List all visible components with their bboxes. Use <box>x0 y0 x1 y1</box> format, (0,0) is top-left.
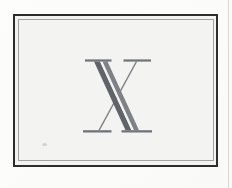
letter-x-serif-bottom-right <box>122 130 153 132</box>
letter-x-glyph <box>0 0 232 188</box>
letter-x-thick-stroke-dark-band <box>94 62 132 131</box>
letter-x-thick-stroke-mid-band <box>103 62 140 131</box>
letter-x-serif-top-right <box>124 59 152 61</box>
letter-x-serif-top-left <box>85 59 112 61</box>
scanned-page: X <box>0 0 232 188</box>
letter-x-serif-bottom-left <box>83 130 112 132</box>
dust-speck <box>42 143 47 146</box>
